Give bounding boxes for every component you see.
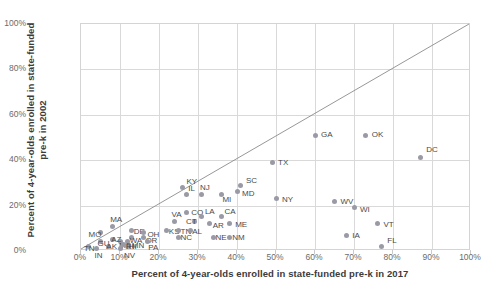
data-point-label: RI [126, 242, 134, 251]
data-point-label: FL [387, 236, 396, 245]
y-tick-label: 20% [0, 200, 26, 210]
scatter-chart: Percent of 4-year-olds enrolled in state… [0, 0, 500, 291]
data-point [110, 224, 115, 229]
x-tick-mark [197, 250, 198, 254]
data-point [332, 199, 337, 204]
x-tick-mark [314, 250, 315, 254]
data-point-label: VA [172, 210, 182, 219]
x-tick-mark [275, 250, 276, 254]
data-point-label: TX [278, 158, 288, 167]
data-point-label: AR [213, 221, 224, 230]
data-point [352, 205, 357, 210]
data-point-label: AL [192, 227, 202, 236]
data-point [180, 185, 185, 190]
data-point-label: ME [235, 220, 247, 229]
data-point-label: PA [148, 243, 158, 252]
y-tick-label: 100% [0, 18, 26, 28]
data-point-label: TN [84, 244, 95, 253]
x-tick-mark [392, 250, 393, 254]
data-point-label: MO [89, 230, 102, 239]
data-point-label: MD [242, 189, 254, 198]
data-point-label: IN [95, 251, 103, 260]
data-point-label: SC [246, 176, 257, 185]
data-point [184, 210, 189, 215]
data-point-label: IL [188, 184, 195, 193]
x-tick-mark [353, 250, 354, 254]
data-point [227, 235, 232, 240]
data-point-label: WI [360, 205, 370, 214]
x-tick-mark [80, 250, 81, 254]
x-axis-title: Percent of 4-year-olds enrolled in state… [60, 268, 480, 279]
data-point-label: NM [232, 233, 244, 242]
data-point [227, 221, 232, 226]
data-point-label: MI [222, 195, 231, 204]
data-point [379, 244, 384, 249]
y-tick-label: 60% [0, 109, 26, 119]
y-tick-label: 40% [0, 154, 26, 164]
x-tick-mark [236, 250, 237, 254]
data-point-label: OK [372, 130, 384, 139]
data-point [313, 133, 318, 138]
data-point-label: WV [341, 197, 354, 206]
data-point-label: CA [224, 207, 235, 216]
data-point-label: IA [352, 231, 360, 240]
data-point-label: NE [216, 233, 227, 242]
data-point-label: DC [426, 145, 438, 154]
reference-line [81, 24, 469, 249]
data-point-label: CT [186, 217, 197, 226]
y-axis-title: Percent of 4-year-olds enrolled in state… [25, 15, 49, 245]
data-point [363, 133, 368, 138]
plot-area: DCOKGATXNYWVWIVTIAFLSCMDMINJKYILCOLACAME… [80, 23, 470, 250]
data-point [274, 196, 279, 201]
data-point [118, 246, 123, 251]
data-point-label: AK [106, 242, 117, 251]
data-point-label: NV [124, 251, 135, 260]
data-point [270, 160, 275, 165]
data-point-label: MA [110, 215, 122, 224]
data-point-label: GA [321, 130, 333, 139]
data-point-label: NC [181, 233, 193, 242]
y-tick-label: 0% [0, 245, 26, 255]
x-tick-mark [431, 250, 432, 254]
y-tick-label: 80% [0, 63, 26, 73]
x-tick-mark [470, 250, 471, 254]
data-point-label: LA [205, 207, 215, 216]
data-point-label: VT [383, 220, 393, 229]
data-point-label: NY [282, 195, 293, 204]
data-point-label: NJ [200, 183, 210, 192]
data-point [344, 233, 349, 238]
